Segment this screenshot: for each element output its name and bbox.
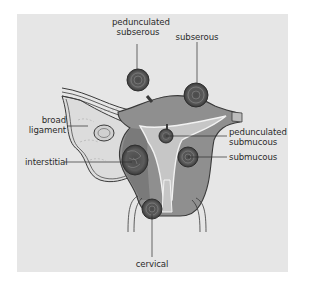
label-cervical: cervical [130,259,174,269]
label-line: ligament [22,125,66,135]
label-pedunculated-subserous: pedunculated subserous [112,17,164,37]
label-line: broad [22,115,66,125]
fibroid-subserous [184,83,208,107]
label-submucous: submucous [229,152,277,162]
label-line: submucous [229,137,287,147]
label-pedunculated-submucous: pedunculated submucous [229,127,287,147]
label-broad-ligament: broad ligament [22,115,66,135]
label-subserous: subserous [175,32,219,42]
label-line: subserous [112,27,164,37]
fibroid-broad-ligament [94,125,114,141]
fibroid-pedunculated-subserous [127,69,152,102]
label-line: pedunculated [112,17,164,27]
label-line: pedunculated [229,127,287,137]
fibroid-interstitial [122,145,148,175]
label-interstitial: interstitial [25,157,67,167]
